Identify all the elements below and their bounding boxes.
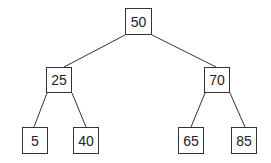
node-40: 40 <box>73 127 99 154</box>
node-label: 70 <box>209 72 225 88</box>
node-65: 65 <box>178 127 204 154</box>
node-label: 50 <box>131 14 147 30</box>
edge-50-70 <box>152 35 216 67</box>
edge-70-85 <box>230 93 245 127</box>
node-70: 70 <box>204 67 230 93</box>
node-label: 5 <box>31 133 39 149</box>
node-50: 50 <box>125 8 152 35</box>
node-85: 85 <box>231 127 257 154</box>
edge-25-5 <box>34 93 47 127</box>
edge-70-65 <box>191 93 205 127</box>
edge-25-40 <box>72 93 86 127</box>
node-label: 40 <box>78 133 94 149</box>
node-label: 65 <box>183 133 199 149</box>
node-5: 5 <box>22 127 48 154</box>
edge-50-25 <box>64 35 125 67</box>
node-label: 25 <box>51 72 67 88</box>
node-label: 85 <box>236 133 252 149</box>
node-25: 25 <box>46 67 72 93</box>
